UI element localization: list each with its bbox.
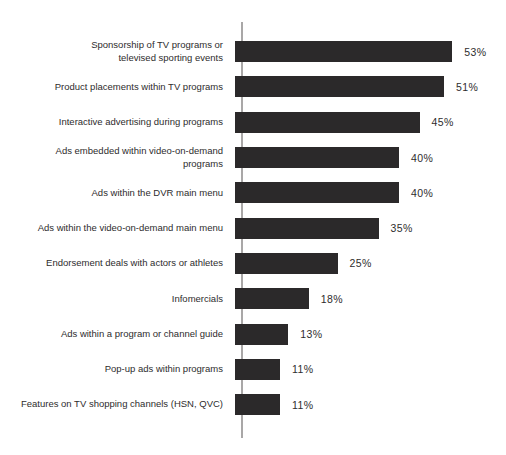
bar <box>235 112 420 133</box>
category-label: Features on TV shopping channels (HSN, Q… <box>0 398 233 410</box>
bar <box>235 359 280 380</box>
category-label: Ads within the video-on-demand main menu <box>0 222 233 234</box>
category-label: Infomercials <box>0 293 233 305</box>
category-label: Endorsement deals with actors or athlete… <box>0 257 233 269</box>
category-label: Ads embedded within video-on-demand prog… <box>0 145 233 170</box>
bar-area: 13% <box>235 324 323 345</box>
bar-area: 11% <box>235 359 314 380</box>
bar-row: Ads embedded within video-on-demand prog… <box>0 140 506 175</box>
bar-area: 35% <box>235 218 413 239</box>
bar-row: Sponsorship of TV programs or televised … <box>0 34 506 69</box>
category-label: Interactive advertising during programs <box>0 116 233 128</box>
bar <box>235 394 280 415</box>
category-label: Product placements within TV programs <box>0 81 233 93</box>
value-label: 51% <box>456 81 478 93</box>
value-label: 11% <box>292 399 313 411</box>
bar-row: Interactive advertising during programs … <box>0 105 506 140</box>
bar-area: 45% <box>235 112 454 133</box>
value-label: 25% <box>350 257 372 269</box>
category-label: Sponsorship of TV programs or televised … <box>0 39 233 64</box>
bar-row: Ads within a program or channel guide 13… <box>0 316 506 351</box>
bar-rows-container: Sponsorship of TV programs or televised … <box>0 34 506 422</box>
horizontal-bar-chart: Sponsorship of TV programs or televised … <box>0 0 506 455</box>
value-label: 53% <box>464 46 486 58</box>
bar <box>235 253 338 274</box>
value-label: 40% <box>411 187 433 199</box>
value-label: 11% <box>292 363 313 375</box>
bar <box>235 182 399 203</box>
value-label: 40% <box>411 152 433 164</box>
value-label: 18% <box>321 293 343 305</box>
bar-row: Pop-up ads within programs 11% <box>0 352 506 387</box>
value-label: 35% <box>391 222 413 234</box>
bar-row: Ads within the DVR main menu 40% <box>0 175 506 210</box>
bar <box>235 41 452 62</box>
bar-row: Ads within the video-on-demand main menu… <box>0 210 506 245</box>
value-label: 45% <box>432 116 454 128</box>
category-label: Pop-up ads within programs <box>0 363 233 375</box>
bar-row: Features on TV shopping channels (HSN, Q… <box>0 387 506 422</box>
bar-area: 51% <box>235 76 478 97</box>
bar-area: 40% <box>235 182 433 203</box>
bar <box>235 76 444 97</box>
bar <box>235 288 309 309</box>
bar-area: 53% <box>235 41 487 62</box>
bar-area: 11% <box>235 394 314 415</box>
bar <box>235 324 288 345</box>
bar-area: 25% <box>235 253 372 274</box>
bar-area: 18% <box>235 288 343 309</box>
category-label: Ads within a program or channel guide <box>0 328 233 340</box>
bar-row: Endorsement deals with actors or athlete… <box>0 246 506 281</box>
bar <box>235 147 399 168</box>
bar <box>235 218 379 239</box>
value-label: 13% <box>300 328 322 340</box>
category-label: Ads within the DVR main menu <box>0 187 233 199</box>
bar-row: Product placements within TV programs 51… <box>0 69 506 104</box>
bar-row: Infomercials 18% <box>0 281 506 316</box>
bar-area: 40% <box>235 147 433 168</box>
